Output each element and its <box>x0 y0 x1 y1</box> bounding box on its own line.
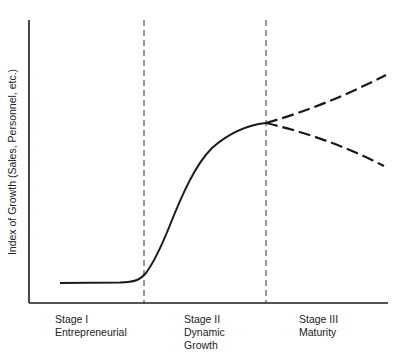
continued-growth-branch <box>266 75 386 123</box>
stage-3-title: Stage III <box>299 313 338 326</box>
stage-1-label: Stage I Entrepreneurial <box>55 313 127 339</box>
growth-stages-diagram <box>0 0 405 357</box>
stage-2-subtitle-line1: Dynamic <box>184 326 225 339</box>
stage-3-subtitle: Maturity <box>299 326 338 339</box>
stage-2-label: Stage II Dynamic Growth <box>184 313 225 352</box>
stage-1-title: Stage I <box>55 313 127 326</box>
stage-1-subtitle: Entrepreneurial <box>55 326 127 339</box>
y-axis-label: Index of Growth (Sales, Personnel, etc.) <box>6 69 18 255</box>
stage-2-subtitle-line2: Growth <box>184 339 225 352</box>
stage-2-title: Stage II <box>184 313 225 326</box>
stage-3-label: Stage III Maturity <box>299 313 338 339</box>
growth-curve <box>60 123 266 283</box>
decline-branch <box>266 123 384 166</box>
